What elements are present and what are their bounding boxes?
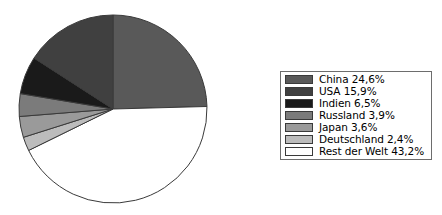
pie-slice-group: [19, 15, 207, 203]
legend-swatch-usa: [285, 87, 313, 96]
legend-label-rest-der-welt: Rest der Welt 43,2%: [319, 146, 424, 157]
legend-swatch-rest-der-welt: [285, 147, 313, 156]
legend-swatch-russland: [285, 111, 313, 120]
legend-swatch-indien: [285, 99, 313, 108]
legend-item-deutschland[interactable]: Deutschland 2,4%: [285, 134, 428, 145]
legend-item-china[interactable]: China 24,6%: [285, 74, 428, 85]
chart-legend: China 24,6% USA 15,9% Indien 6,5% Russla…: [280, 71, 432, 160]
legend-item-japan[interactable]: Japan 3,6%: [285, 122, 428, 133]
legend-label-japan: Japan 3,6%: [319, 122, 377, 133]
legend-swatch-japan: [285, 123, 313, 132]
pie-slice-china[interactable]: [113, 15, 207, 109]
legend-item-usa[interactable]: USA 15,9%: [285, 86, 428, 97]
legend-swatch-china: [285, 75, 313, 84]
legend-item-indien[interactable]: Indien 6,5%: [285, 98, 428, 109]
pie-chart-plot-area: [0, 0, 230, 215]
pie-svg: [0, 0, 230, 215]
legend-label-russland: Russland 3,9%: [319, 110, 395, 121]
legend-swatch-deutschland: [285, 135, 313, 144]
legend-label-deutschland: Deutschland 2,4%: [319, 134, 413, 145]
legend-label-indien: Indien 6,5%: [319, 98, 380, 109]
legend-item-rest-der-welt[interactable]: Rest der Welt 43,2%: [285, 146, 428, 157]
legend-item-russland[interactable]: Russland 3,9%: [285, 110, 428, 121]
legend-label-usa: USA 15,9%: [319, 86, 377, 97]
legend-label-china: China 24,6%: [319, 74, 385, 85]
pie-chart-figure: China 24,6% USA 15,9% Indien 6,5% Russla…: [0, 0, 442, 215]
